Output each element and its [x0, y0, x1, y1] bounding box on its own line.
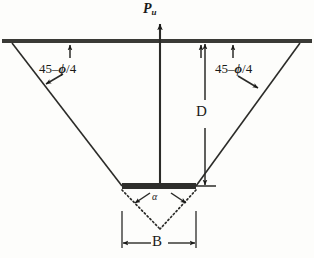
wedge-angle-label-right: 45–ϕ/4	[215, 62, 252, 75]
load-label-subscript: u	[152, 7, 157, 17]
load-label: Pu	[143, 2, 157, 17]
alpha-arrow-left	[135, 193, 150, 203]
load-label-text: P	[143, 1, 152, 16]
dotted-wedge-right	[160, 190, 196, 229]
wedge-angle-label-left: 45–ϕ/4	[39, 62, 76, 75]
bearing-capacity-diagram	[0, 0, 314, 258]
wedge-angle-right-divisor: /4	[242, 61, 252, 76]
figure-canvas: Pu 45–ϕ/4 45–ϕ/4 D B α	[0, 0, 314, 258]
alpha-arrow-right	[171, 193, 186, 203]
footing-bar	[122, 183, 196, 189]
wedge-angle-right-phi: ϕ	[235, 61, 243, 76]
wedge-angle-left-divisor: /4	[66, 61, 76, 76]
wedge-angle-left-prefix: 45	[39, 61, 52, 76]
depth-label: D	[196, 104, 207, 119]
wedge-angle-left-phi: ϕ	[59, 61, 67, 76]
wedge-angle-right-prefix: 45	[215, 61, 228, 76]
width-label: B	[152, 234, 162, 249]
leader-arrow-right-angle	[238, 76, 258, 88]
alpha-angle-label: α	[152, 192, 157, 202]
